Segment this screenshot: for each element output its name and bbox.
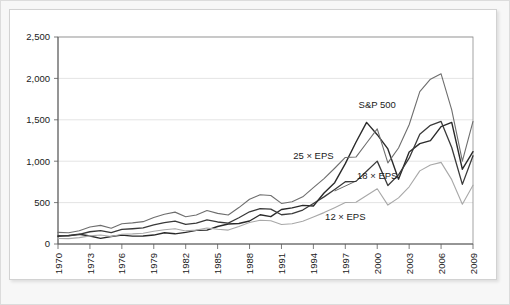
series-label-12-eps: 12 × EPS (325, 211, 365, 222)
y-axis-tick-label: 0 (45, 238, 50, 249)
y-axis-tick-label: 2,500 (26, 31, 50, 42)
x-axis-tick-label: 2003 (404, 253, 415, 274)
x-axis-tick-label: 1970 (53, 253, 64, 274)
x-axis-tick-label: 1994 (308, 253, 319, 274)
series-label-25-eps: 25 × EPS (293, 150, 333, 161)
x-axis-tick-label: 1997 (340, 253, 351, 274)
y-axis-tick-label: 1,000 (26, 156, 50, 167)
y-axis-tick-label: 2,000 (26, 73, 50, 84)
x-axis-tick-label: 1988 (244, 253, 255, 274)
x-axis-tick-label: 2000 (372, 253, 383, 274)
figure-outer-frame: 05001,0001,5002,0002,5001970197319761979… (0, 0, 510, 305)
figure-card: 05001,0001,5002,0002,5001970197319761979… (9, 9, 497, 280)
x-axis-tick-label: 1985 (212, 253, 223, 274)
series-line-18-eps (58, 121, 473, 236)
y-axis-tick-label: 500 (34, 197, 50, 208)
x-axis-tick-label: 2009 (468, 253, 479, 274)
x-axis-tick-label: 1982 (180, 253, 191, 274)
line-chart: 05001,0001,5002,0002,5001970197319761979… (10, 10, 498, 281)
series-label-s-p-500: S&P 500 (359, 99, 396, 110)
x-axis-tick-label: 1973 (85, 253, 96, 274)
series-label-18-eps: 18 × EPS (357, 170, 397, 181)
x-axis-tick-label: 1979 (148, 253, 159, 274)
x-axis-tick-label: 1976 (116, 253, 127, 274)
plot-area-border (58, 37, 473, 244)
series-line-12-eps (58, 162, 473, 238)
y-axis-tick-label: 1,500 (26, 114, 50, 125)
x-axis-tick-label: 2006 (436, 253, 447, 274)
annotation-leader-line (335, 181, 356, 191)
x-axis-tick-label: 1991 (276, 253, 287, 274)
